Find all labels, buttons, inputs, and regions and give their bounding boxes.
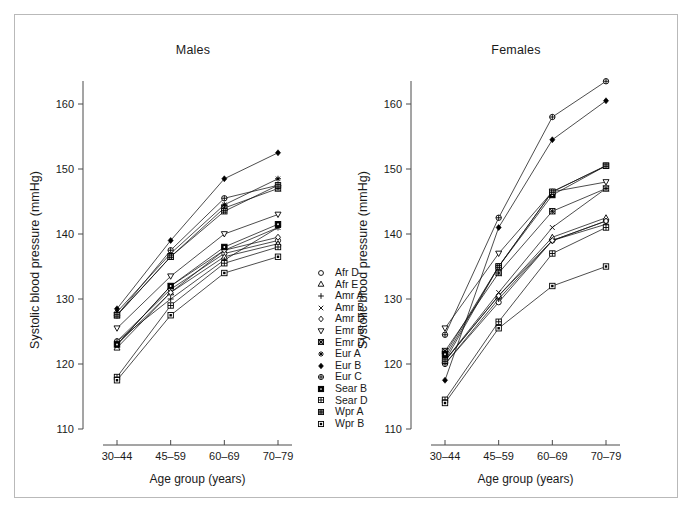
marker-square-plus (550, 251, 555, 256)
legend-item-label: Wpr B (329, 418, 364, 430)
circle-plus-icon (313, 371, 329, 383)
marker-square-hatched (496, 264, 501, 269)
marker-square-plus (222, 261, 227, 266)
figure-frame: Males 110120130140150160Systolic blood p… (14, 14, 678, 498)
marker-square-small-filled (550, 283, 555, 288)
series-line (117, 185, 278, 315)
marker-square-filled-dot (168, 283, 173, 288)
x-axis-label: Age group (years) (477, 472, 573, 486)
marker-triangle-open (318, 282, 324, 287)
marker-triangle-down-open (318, 329, 324, 334)
marker-circle-plus (222, 196, 227, 201)
marker-square-hatched (114, 313, 119, 318)
marker-square-hatched (275, 183, 280, 188)
marker-diamond-filled (603, 98, 608, 104)
marker-diamond-open (319, 316, 324, 322)
legend-item: Wpr B (313, 418, 393, 430)
marker-circle-open (319, 270, 324, 275)
marker-square-hatched (318, 409, 323, 414)
x-tick-label: 60–69 (209, 450, 240, 462)
marker-circle-plus (496, 215, 501, 220)
plus-icon (313, 290, 329, 302)
marker-cross (319, 305, 324, 310)
y-tick-label: 160 (384, 98, 402, 110)
panel-males: Males 110120130140150160Systolic blood p… (17, 15, 347, 499)
y-tick-label: 110 (56, 423, 74, 435)
x-tick-label: 30–44 (102, 450, 133, 462)
square-hatched-icon (313, 406, 329, 418)
marker-circle-plus (550, 114, 555, 119)
marker-diamond-filled (550, 137, 555, 143)
legend-item: Afr D (313, 267, 393, 279)
marker-circle-plus (442, 332, 447, 337)
marker-square-hatched (603, 163, 608, 168)
legend: Afr DAfr EAmr AAmr BAmr DEmr BEmr DEur A… (313, 267, 393, 429)
plot-area-females: 110120130140150160Systolic blood pressur… (345, 15, 675, 499)
series-line (445, 182, 606, 328)
marker-square-crosshatch (603, 186, 608, 191)
marker-square-hatched (168, 254, 173, 259)
marker-square-plus (275, 244, 280, 249)
y-axis-label: Systolic blood pressure (mmHg) (28, 171, 42, 349)
legend-item: Wpr A (313, 406, 393, 418)
marker-diamond-filled (319, 363, 324, 369)
legend-item-label: Emr B (329, 325, 364, 337)
diamond-filled-icon (313, 360, 329, 372)
marker-square-plus (168, 303, 173, 308)
x-axis-label: Age group (years) (149, 472, 245, 486)
legend-item-label: Wpr A (329, 406, 364, 418)
series-line (117, 179, 278, 312)
square-filled-dot-icon (313, 383, 329, 395)
series-line (445, 228, 606, 400)
marker-square-small-filled (114, 378, 119, 383)
marker-circle-plus (603, 79, 608, 84)
y-tick-label: 140 (384, 228, 402, 240)
legend-item: Eur A (313, 348, 393, 360)
marker-square-small-filled (222, 270, 227, 275)
series-line (117, 241, 278, 342)
plot-area-males: 110120130140150160Systolic blood pressur… (17, 15, 347, 499)
marker-asterisk (221, 202, 227, 208)
legend-item-label: Afr D (329, 267, 359, 279)
marker-square-hatched (442, 358, 447, 363)
marker-diamond-filled (496, 225, 501, 231)
series-line (445, 81, 606, 335)
asterisk-icon (313, 348, 329, 360)
square-crosshatch-icon (313, 337, 329, 349)
marker-cross (550, 225, 555, 230)
triangle-open-icon (313, 279, 329, 291)
y-tick-label: 130 (56, 293, 74, 305)
marker-square-small-filled (603, 264, 608, 269)
marker-square-small-filled (496, 326, 501, 331)
marker-square-crosshatch (550, 209, 555, 214)
y-tick-label: 150 (384, 163, 402, 175)
series-line (117, 237, 278, 344)
legend-item-label: Sear B (329, 383, 367, 395)
marker-triangle-down-open (221, 232, 227, 237)
marker-square-filled-dot (275, 222, 280, 227)
marker-triangle-down-open (496, 251, 502, 256)
marker-plus (318, 293, 324, 299)
y-tick-label: 160 (56, 98, 74, 110)
marker-square-small-filled (275, 254, 280, 259)
panel-females: Females 110120130140150160Systolic blood… (345, 15, 675, 499)
marker-diamond-filled (442, 377, 447, 383)
marker-square-plus (603, 225, 608, 230)
marker-square-filled-dot (318, 386, 323, 391)
marker-triangle-down-open (275, 212, 281, 217)
x-tick-label: 60–69 (537, 450, 568, 462)
legend-item: Emr B (313, 325, 393, 337)
marker-square-filled-dot (222, 244, 227, 249)
marker-square-plus (496, 319, 501, 324)
diamond-open-icon (313, 313, 329, 325)
series-line (117, 185, 278, 315)
marker-diamond-filled (275, 150, 280, 156)
marker-square-filled-dot (114, 342, 119, 347)
marker-square-small-filled (442, 400, 447, 405)
marker-square-small-filled (318, 421, 323, 426)
series-line (445, 166, 606, 358)
triangle-down-open-icon (313, 325, 329, 337)
y-tick-label: 140 (56, 228, 74, 240)
marker-square-crosshatch (496, 270, 501, 275)
series-line (117, 189, 278, 316)
